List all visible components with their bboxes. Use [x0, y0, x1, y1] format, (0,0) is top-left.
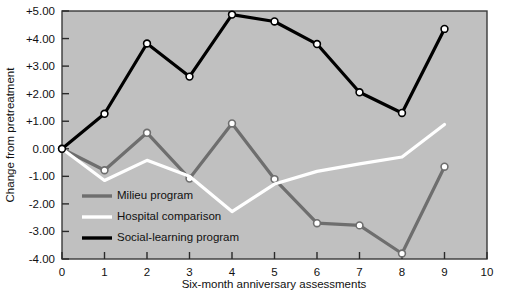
data-point-marker — [356, 89, 363, 96]
line-chart-svg: +5.00+4.00+3.00+2.00+1.000.00-1.00-2.00-… — [0, 0, 505, 298]
data-point-marker — [101, 167, 108, 174]
data-point-marker — [144, 40, 151, 47]
data-point-marker — [271, 176, 278, 183]
data-point-marker — [356, 222, 363, 229]
x-tick-label: 1 — [101, 266, 107, 278]
y-tick-label: +2.00 — [26, 88, 55, 100]
data-point-marker — [229, 120, 236, 127]
x-tick-label: 6 — [314, 266, 320, 278]
data-point-marker — [101, 110, 108, 117]
legend-label: Social-learning program — [117, 231, 239, 243]
x-tick-label: 3 — [186, 266, 192, 278]
x-tick-label: 2 — [144, 266, 150, 278]
data-point-marker — [314, 220, 321, 227]
y-tick-label: +4.00 — [26, 33, 55, 45]
y-axis-title: Change from pretreatment — [4, 67, 16, 203]
data-point-marker — [441, 26, 448, 33]
y-tick-label: +5.00 — [26, 5, 55, 17]
x-tick-label: 9 — [441, 266, 447, 278]
x-tick-label: 4 — [229, 266, 236, 278]
x-tick-label: 8 — [399, 266, 405, 278]
data-point-marker — [144, 129, 151, 136]
data-point-marker — [229, 11, 236, 18]
data-point-marker — [59, 145, 66, 152]
y-tick-label: -1.00 — [29, 170, 55, 182]
data-point-marker — [186, 73, 193, 80]
data-point-marker — [271, 18, 278, 25]
chart-figure: +5.00+4.00+3.00+2.00+1.000.00-1.00-2.00-… — [0, 0, 505, 298]
y-tick-label: 0.00 — [33, 143, 55, 155]
data-point-marker — [314, 41, 321, 48]
x-axis-title: Six-month anniversary assessments — [182, 278, 367, 290]
x-tick-label: 0 — [59, 266, 65, 278]
y-tick-label: -3.00 — [29, 225, 55, 237]
data-point-marker — [399, 250, 406, 257]
y-tick-label: -2.00 — [29, 198, 55, 210]
x-tick-label: 5 — [271, 266, 277, 278]
x-tick-label: 7 — [356, 266, 362, 278]
y-tick-label: +3.00 — [26, 60, 55, 72]
data-point-marker — [399, 110, 406, 117]
legend-label: Hospital comparison — [117, 210, 221, 222]
legend-label: Milieu program — [117, 189, 193, 201]
y-tick-label: +1.00 — [26, 115, 55, 127]
data-point-marker — [441, 163, 448, 170]
y-tick-label: -4.00 — [29, 253, 55, 265]
x-tick-label: 10 — [481, 266, 494, 278]
